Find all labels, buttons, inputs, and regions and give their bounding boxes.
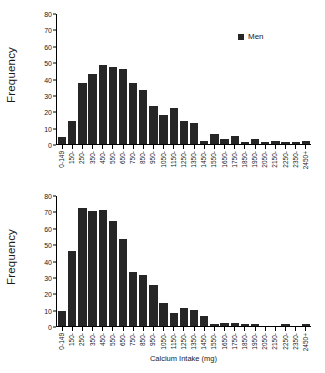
bar-cell xyxy=(280,196,290,326)
bar-cell xyxy=(67,196,77,326)
bar-cell xyxy=(291,14,301,144)
bar-cell xyxy=(199,196,209,326)
bar-cell xyxy=(280,14,290,144)
histogram-bar xyxy=(180,121,188,144)
x-axis-tick-label: 1350- xyxy=(189,333,199,373)
x-axis-tick-label: 2150- xyxy=(270,333,280,373)
bar-cell xyxy=(179,14,189,144)
y-axis-tick-mark xyxy=(53,212,56,213)
bar-cell xyxy=(169,14,179,144)
x-axis-tick-label: 1450- xyxy=(199,333,209,373)
histogram-bar xyxy=(281,324,289,326)
bar-cell xyxy=(250,196,260,326)
y-axis-tick-mark xyxy=(53,310,56,311)
bar-cell xyxy=(108,14,118,144)
x-axis-tick-label: 2050- xyxy=(260,333,270,373)
histogram-bar xyxy=(251,324,259,326)
bar-cell xyxy=(270,196,280,326)
y-axis-tick-mark xyxy=(53,277,56,278)
histogram-bar xyxy=(241,324,249,326)
histogram-bar xyxy=(139,275,147,326)
histogram-bar xyxy=(88,74,96,144)
bar-cell xyxy=(230,196,240,326)
x-axis-tick-label: 850- xyxy=(138,333,148,373)
bar-cell xyxy=(179,196,189,326)
y-axis-title-men: Frequency xyxy=(2,0,20,150)
y-axis-tick-mark xyxy=(53,128,56,129)
bar-cell xyxy=(148,196,158,326)
bar-cell xyxy=(98,196,108,326)
bar-cell xyxy=(209,196,219,326)
bar-cell xyxy=(220,14,230,144)
histogram-bar xyxy=(170,313,178,326)
bar-cell xyxy=(87,196,97,326)
x-axis-tick-label: 450- xyxy=(98,333,108,373)
histogram-bar xyxy=(109,221,117,326)
bar-cell xyxy=(301,196,311,326)
x-axis-tick-label: 2350- xyxy=(291,333,301,373)
calcium-intake-histogram-figure: Frequency 0-149150-250-350-450-550-650-7… xyxy=(0,0,325,373)
histogram-bar xyxy=(68,251,76,326)
x-axis-tick-label: 1650- xyxy=(220,333,230,373)
bar-cell xyxy=(57,14,67,144)
y-axis-title-women: Frequency xyxy=(2,182,20,332)
y-axis-tick-mark xyxy=(53,196,56,197)
x-axis-tick-label: 1850- xyxy=(240,333,250,373)
y-axis-tick-mark xyxy=(53,14,56,15)
histogram-bar xyxy=(99,65,107,144)
bar-cell xyxy=(138,14,148,144)
bar-cell xyxy=(301,14,311,144)
histogram-bar xyxy=(302,324,310,326)
histogram-bar xyxy=(159,115,167,144)
bar-cell xyxy=(189,14,199,144)
bar-series-women xyxy=(57,196,311,326)
histogram-bar xyxy=(200,141,208,144)
y-axis-tick-mark xyxy=(53,79,56,80)
chart-panel-men: Frequency 0-149150-250-350-450-550-650-7… xyxy=(0,0,325,182)
x-axis-tick-label: 150- xyxy=(67,333,77,373)
histogram-bar xyxy=(68,121,76,144)
histogram-bar xyxy=(292,142,300,144)
legend-label-men: Men xyxy=(248,33,264,41)
histogram-bar xyxy=(119,239,127,326)
histogram-bar xyxy=(231,323,239,326)
histogram-bar xyxy=(231,136,239,144)
histogram-bar xyxy=(281,142,289,144)
bar-cell xyxy=(209,14,219,144)
histogram-bar xyxy=(58,137,66,144)
histogram-bar xyxy=(190,123,198,144)
x-axis-tick-label: 650- xyxy=(118,333,128,373)
x-axis-tick-label: 1150- xyxy=(169,333,179,373)
histogram-bar xyxy=(119,69,127,144)
bar-cell xyxy=(77,14,87,144)
x-axis-title: Calcium Intake (mg) xyxy=(56,354,311,363)
y-axis-tick-mark xyxy=(53,145,56,146)
y-axis-tick-mark xyxy=(53,30,56,31)
x-axis-tick-label: 1550- xyxy=(209,333,219,373)
x-axis-tick-label: 2450+ xyxy=(301,333,311,373)
histogram-bar xyxy=(220,139,228,144)
histogram-bar xyxy=(159,303,167,326)
histogram-bar xyxy=(261,142,269,144)
x-axis-tick-label: 1750- xyxy=(230,333,240,373)
histogram-bar xyxy=(109,67,117,144)
histogram-bar xyxy=(190,310,198,326)
bar-cell xyxy=(118,14,128,144)
histogram-bar xyxy=(149,106,157,144)
histogram-bar xyxy=(271,141,279,144)
bar-cell xyxy=(108,196,118,326)
y-axis-tick-mark xyxy=(53,112,56,113)
bar-cell xyxy=(159,14,169,144)
y-axis-tick-mark xyxy=(53,294,56,295)
histogram-bar xyxy=(241,142,249,144)
bar-cell xyxy=(169,196,179,326)
histogram-bar xyxy=(251,139,259,144)
histogram-bar xyxy=(78,208,86,326)
histogram-bar xyxy=(88,211,96,326)
bar-cell xyxy=(57,196,67,326)
bar-cell xyxy=(128,14,138,144)
plot-area-women: 0-149150-250-350-450-550-650-750-850-950… xyxy=(56,196,311,327)
histogram-bar xyxy=(78,83,86,144)
histogram-bar xyxy=(302,141,310,144)
histogram-bar xyxy=(220,323,228,326)
